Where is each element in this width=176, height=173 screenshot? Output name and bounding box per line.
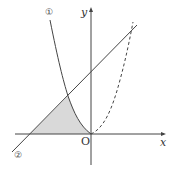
curve-3-dashed bbox=[91, 22, 133, 134]
y-axis-arrow-icon bbox=[89, 7, 93, 12]
function-graph: y x O ① ② bbox=[0, 0, 176, 173]
origin-label: O bbox=[81, 135, 90, 148]
curve-1-marker: ① bbox=[45, 7, 53, 17]
y-axis-label: y bbox=[80, 6, 88, 19]
line-2-marker: ② bbox=[14, 150, 22, 160]
x-axis-label: x bbox=[160, 136, 167, 149]
shaded-region bbox=[30, 96, 91, 134]
